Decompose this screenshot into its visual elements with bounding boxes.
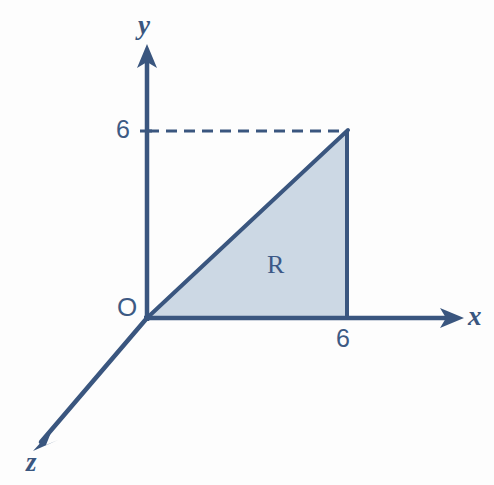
x-axis-tick-label-6: 6 <box>336 326 350 351</box>
z-axis-line <box>41 318 147 442</box>
origin-label: O <box>117 294 137 320</box>
y-axis-tick-label-6: 6 <box>116 117 130 142</box>
coordinate-axes-diagram <box>0 0 494 485</box>
z-axis-label: z <box>26 449 37 476</box>
figure-canvas: y x z O 6 6 R <box>0 0 494 485</box>
x-axis-label: x <box>468 303 482 330</box>
region-label-r: R <box>267 252 284 278</box>
y-axis-label: y <box>138 12 150 39</box>
